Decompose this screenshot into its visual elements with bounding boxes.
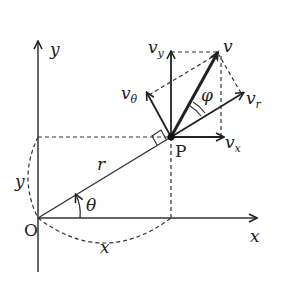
theta-arc [76, 195, 80, 218]
x-projection-label: x [100, 237, 110, 257]
y-projection-label: y [14, 171, 25, 191]
origin-label: O [24, 220, 38, 240]
phi-arc-inner [190, 106, 201, 116]
radius-line [38, 137, 171, 218]
vtheta-vector [147, 93, 171, 137]
x-axis-label: x [250, 226, 260, 246]
v-label: v [223, 36, 233, 56]
vy-label-sub: y [157, 47, 165, 60]
vx-label: vx [225, 132, 242, 155]
point-p-label: P [175, 141, 186, 161]
vr-to-v-dashed [219, 55, 241, 93]
point-p [168, 134, 175, 141]
vx-label-sub: x [235, 142, 242, 155]
phi-label: φ [201, 85, 213, 105]
vy-label: vy [148, 37, 165, 60]
vr-label-sub: r [256, 98, 262, 111]
y-brace-arc [28, 137, 38, 218]
vtheta-label-sub: θ [131, 93, 138, 106]
vy-label-base: v [148, 37, 158, 57]
vtheta-label-base: v [121, 83, 131, 103]
velocity-diagram: y x O P r θ y x φ v vy vx vr vθ [0, 0, 281, 296]
y-axis-label: y [49, 39, 60, 59]
vtheta-label: vθ [121, 83, 138, 106]
vx-label-base: v [225, 132, 235, 152]
vr-label: vr [246, 88, 262, 111]
vr-label-base: v [246, 88, 256, 108]
radius-label: r [97, 154, 106, 174]
theta-label: θ [86, 195, 96, 215]
